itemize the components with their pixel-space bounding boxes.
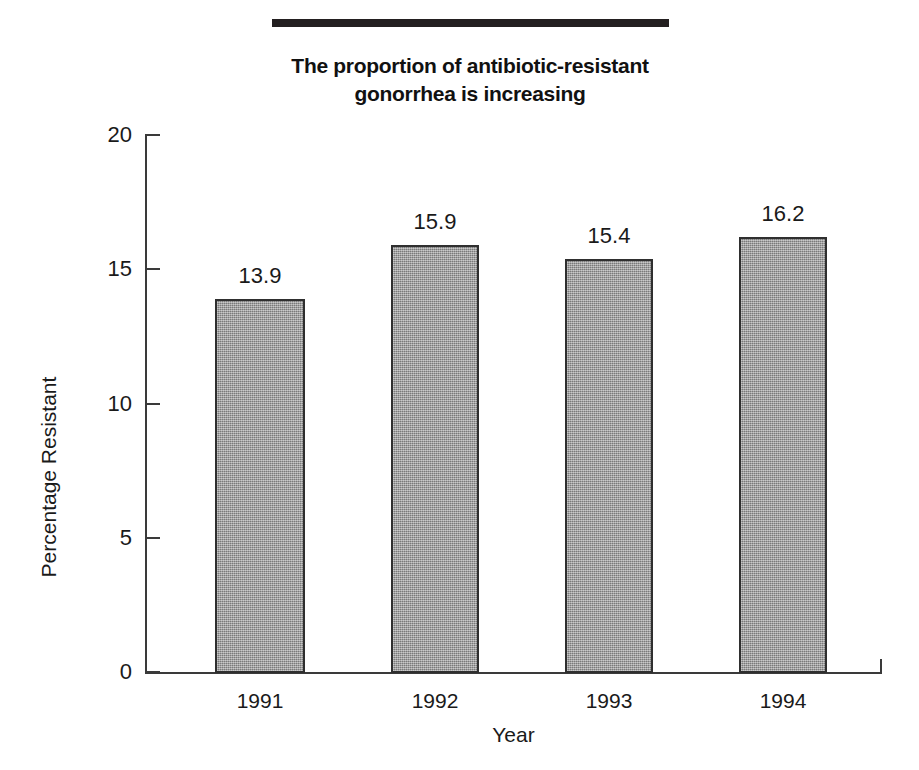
x-tick-label-1993: 1993: [525, 690, 693, 712]
y-tick-15: [147, 268, 160, 270]
bar-value-label-1994: 16.2: [699, 203, 867, 225]
x-axis-end-tick: [880, 659, 882, 674]
y-tick-0: [147, 671, 160, 673]
bar-chart-figure: The proportion of antibiotic-resistantgo…: [0, 0, 919, 770]
bar-value-label-1992: 15.9: [351, 211, 519, 233]
bar-1991: [215, 299, 305, 673]
x-tick-label-1992: 1992: [351, 690, 519, 712]
y-tick-label-10: 10: [86, 393, 132, 415]
x-tick-label-1994: 1994: [699, 690, 867, 712]
y-tick-label-5: 5: [86, 527, 132, 549]
bar-1993: [565, 259, 653, 673]
x-tick-label-1991: 1991: [175, 690, 345, 712]
y-tick-label-20: 20: [86, 124, 132, 146]
y-tick-10: [147, 403, 160, 405]
y-tick-label-0: 0: [86, 661, 132, 683]
y-tick-20: [147, 134, 160, 136]
y-axis-title: Percentage Resistant: [37, 237, 61, 717]
bar-value-label-1991: 13.9: [175, 265, 345, 287]
bar-1994: [739, 237, 827, 673]
x-axis-title: Year: [145, 723, 882, 747]
plot-area: 05101520 13.9199115.9199215.4199316.2199…: [0, 0, 919, 770]
bar-1992: [391, 245, 479, 673]
y-tick-label-15: 15: [86, 258, 132, 280]
y-tick-5: [147, 537, 160, 539]
bar-value-label-1993: 15.4: [525, 225, 693, 247]
